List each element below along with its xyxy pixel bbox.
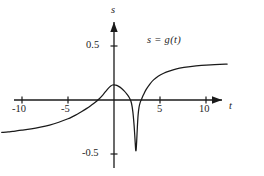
x-tick-label-neg10: -10 xyxy=(12,104,26,115)
y-tick-label-pos: 0.5 xyxy=(86,40,99,51)
x-axis-arrow-icon xyxy=(212,96,222,103)
x-tick-label-neg5: -5 xyxy=(61,104,70,115)
graph-figure: -10 -5 5 10 0.5 -0.5 t s s = g(t) xyxy=(0,0,264,176)
x-axis-label: t xyxy=(229,101,232,112)
y-tick-label-neg: -0.5 xyxy=(82,148,99,159)
x-tick-label-pos5: 5 xyxy=(157,104,162,115)
x-tick-label-pos10: 10 xyxy=(199,104,210,115)
graph-canvas xyxy=(0,0,264,176)
y-axis-label: s xyxy=(111,5,115,16)
equation-annotation: s = g(t) xyxy=(147,35,181,46)
y-axis-arrow-icon xyxy=(110,22,117,32)
axes-group xyxy=(14,22,222,168)
